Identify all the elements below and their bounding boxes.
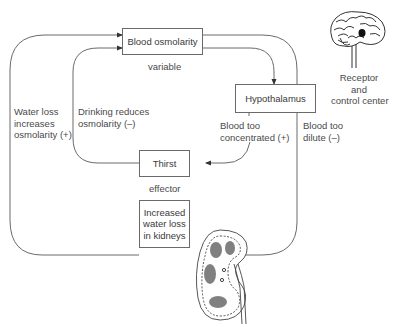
- brain-icon: [326, 8, 388, 70]
- too-dilute-label: Blood too dilute (–): [303, 120, 343, 143]
- edge-osmolarity-outer: [203, 35, 297, 84]
- variable-label: variable: [148, 61, 181, 73]
- too-dilute-line-1: Blood too: [303, 120, 343, 132]
- drinking-label: Drinking reduces osmolarity (–): [78, 106, 149, 129]
- too-dilute-line-2: dilute (–): [303, 132, 343, 144]
- thirst-label: Thirst: [153, 158, 177, 170]
- drinking-line-1: Drinking reduces: [78, 106, 149, 118]
- kidney-icon: [194, 228, 254, 324]
- edge-osmolarity-to-hypothalamus: [203, 48, 274, 84]
- thirst-box: Thirst: [139, 150, 190, 177]
- kidneys-label-line-1: Increased: [144, 207, 186, 219]
- water-loss-line-2: increases: [14, 118, 72, 130]
- blood-osmolarity-label: Blood osmolarity: [127, 36, 197, 48]
- kidneys-label-line-3: in kidneys: [143, 230, 185, 242]
- kidneys-box: Increased water loss in kidneys: [139, 200, 190, 248]
- brain-caption-line-2: and: [331, 84, 387, 96]
- water-loss-label: Water loss increases osmolarity (+): [14, 106, 72, 141]
- brain-caption-line-3: control center: [331, 95, 387, 107]
- too-concentrated-line-2: concentrated (+): [220, 132, 289, 144]
- kidneys-label-line-2: water loss: [143, 218, 186, 230]
- edge-water-loss: [10, 35, 139, 255]
- blood-osmolarity-box: Blood osmolarity: [122, 28, 203, 55]
- effector-label: effector: [149, 183, 181, 195]
- too-concentrated-label: Blood too concentrated (+): [220, 120, 289, 143]
- brain-caption-line-1: Receptor: [331, 72, 387, 84]
- drinking-line-2: osmolarity (–): [78, 118, 149, 130]
- water-loss-line-1: Water loss: [14, 106, 72, 118]
- brain-caption: Receptor and control center: [331, 72, 387, 107]
- hypothalamus-box: Hypothalamus: [235, 84, 316, 113]
- edge-too-concentrated-curve: [206, 142, 250, 163]
- water-loss-line-3: osmolarity (+): [14, 129, 72, 141]
- hypothalamus-label: Hypothalamus: [245, 93, 306, 105]
- too-concentrated-line-1: Blood too: [220, 120, 289, 132]
